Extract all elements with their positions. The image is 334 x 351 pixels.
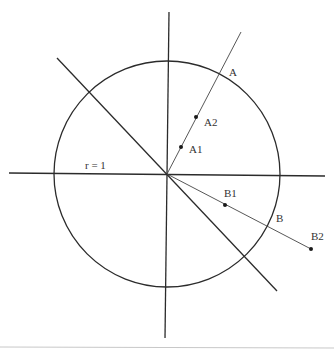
point-a1-dot xyxy=(179,145,183,149)
unit-circle-diagram: A1A2AB1BB2 r = 1 xyxy=(0,0,334,351)
point-b1-dot xyxy=(223,203,227,207)
rays-group xyxy=(167,32,311,249)
point-a2-dot xyxy=(194,115,198,119)
ray-b xyxy=(167,174,311,249)
point-b1-label: B1 xyxy=(224,187,237,199)
footer-divider xyxy=(0,347,334,348)
point-b2-dot xyxy=(309,247,313,251)
point-b-label: B xyxy=(276,212,283,224)
ray-a xyxy=(167,32,241,174)
point-a2-label: A2 xyxy=(204,116,217,128)
radius-label: r = 1 xyxy=(85,159,106,171)
point-a-label: A xyxy=(229,66,237,78)
point-b2-label: B2 xyxy=(311,230,324,242)
point-a1-label: A1 xyxy=(189,143,202,155)
points-group: A1A2AB1BB2 xyxy=(179,66,324,251)
